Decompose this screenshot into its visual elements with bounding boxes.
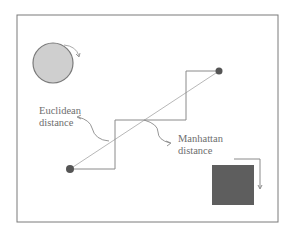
end-point — [216, 68, 223, 75]
euclidean-label-line1: Euclidean — [39, 105, 82, 116]
euclidean-label-line2: distance — [39, 117, 74, 128]
start-point — [66, 165, 74, 173]
manhattan-leader-arrow — [144, 120, 170, 143]
euclidean-leader-arrow — [78, 117, 109, 141]
distance-diagram: Euclidean distance Manhattan distance — [0, 0, 292, 231]
manhattan-label-line1: Manhattan — [178, 133, 224, 144]
manhattan-leader-arrowhead — [166, 141, 171, 146]
manhattan-label-line2: distance — [178, 145, 213, 156]
square-shape — [212, 165, 254, 205]
circle-shape — [33, 43, 73, 83]
